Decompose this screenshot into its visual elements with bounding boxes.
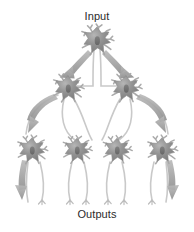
outputs-label: Outputs	[0, 208, 194, 220]
neural-divergence-diagram	[0, 0, 194, 232]
figure-canvas: Input Outputs	[0, 0, 194, 232]
input-label: Input	[0, 10, 194, 22]
